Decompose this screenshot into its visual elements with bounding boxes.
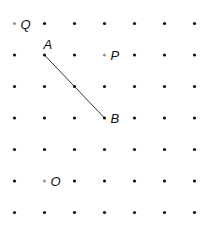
grid-dot — [13, 179, 16, 182]
grid-dot — [43, 22, 46, 25]
grid-dot — [103, 148, 106, 151]
grid-dot — [13, 85, 16, 88]
grid-dot — [193, 85, 196, 88]
point-label-q: Q — [21, 17, 31, 32]
grid-dot — [73, 53, 76, 56]
grid-dots-layer — [13, 22, 196, 214]
grid-dot — [133, 179, 136, 182]
grid-dot — [73, 211, 76, 214]
grid-dot — [163, 85, 166, 88]
point-labels-layer: QAPBO — [21, 17, 120, 190]
grid-dot — [163, 179, 166, 182]
grid-dot — [43, 179, 46, 182]
point-label-b: B — [111, 111, 120, 126]
dot-grid-diagram: QAPBO — [0, 0, 215, 244]
grid-dot — [43, 148, 46, 151]
grid-dot — [193, 53, 196, 56]
point-label-o: O — [51, 174, 61, 189]
grid-dot — [163, 22, 166, 25]
grid-dot — [13, 211, 16, 214]
grid-dot — [163, 148, 166, 151]
grid-dot — [133, 53, 136, 56]
grid-dot — [13, 53, 16, 56]
grid-dot — [73, 22, 76, 25]
grid-dot — [103, 53, 106, 56]
grid-dot — [73, 179, 76, 182]
grid-dot — [43, 53, 46, 56]
point-label-p: P — [111, 48, 120, 63]
grid-dot — [193, 179, 196, 182]
grid-dot — [43, 85, 46, 88]
grid-dot — [103, 211, 106, 214]
grid-dot — [73, 116, 76, 119]
grid-dot — [103, 179, 106, 182]
grid-dot — [193, 148, 196, 151]
grid-dot — [133, 148, 136, 151]
grid-dot — [163, 116, 166, 119]
grid-dot — [103, 22, 106, 25]
grid-dot — [13, 22, 16, 25]
grid-dot — [103, 116, 106, 119]
grid-dot — [133, 211, 136, 214]
grid-dot — [163, 211, 166, 214]
grid-dot — [103, 85, 106, 88]
grid-dot — [193, 211, 196, 214]
grid-dot — [13, 148, 16, 151]
grid-dot — [133, 116, 136, 119]
grid-dot — [193, 116, 196, 119]
grid-dot — [133, 22, 136, 25]
grid-dot — [163, 53, 166, 56]
grid-dot — [43, 116, 46, 119]
grid-dot — [73, 85, 76, 88]
grid-dot — [43, 211, 46, 214]
grid-dot — [133, 85, 136, 88]
grid-dot — [13, 116, 16, 119]
grid-dot — [73, 148, 76, 151]
point-label-a: A — [43, 37, 53, 52]
grid-dot — [193, 22, 196, 25]
